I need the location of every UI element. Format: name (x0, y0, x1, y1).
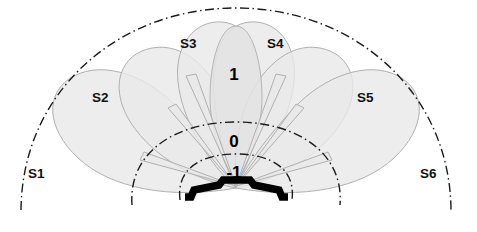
sector-label-s5: S5 (357, 90, 374, 105)
range-label-minus-1: -1 (226, 163, 241, 182)
beam-pattern-svg: S1 S2 S3 S4 S5 S6 1 0 -1 (0, 0, 477, 232)
beam-pattern-figure: S1 S2 S3 S4 S5 S6 1 0 -1 (0, 0, 477, 232)
range-label-1: 1 (229, 65, 238, 84)
sector-label-s1: S1 (28, 166, 45, 181)
sector-label-s3: S3 (180, 36, 197, 51)
sector-label-s6: S6 (420, 166, 437, 181)
sector-label-s4: S4 (267, 36, 284, 51)
sector-label-s2: S2 (92, 90, 109, 105)
range-label-0: 0 (229, 132, 238, 151)
